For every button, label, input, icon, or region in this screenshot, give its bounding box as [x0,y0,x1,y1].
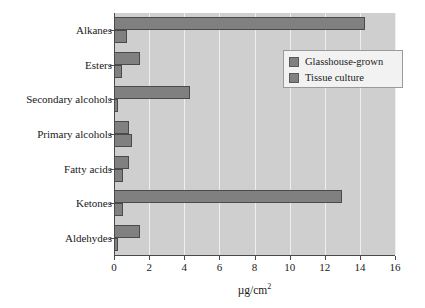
y-axis-category-label: Ketones [4,197,112,210]
bar [114,65,122,78]
x-tick-mark [395,256,396,260]
x-tick-mark [255,256,256,260]
bar [114,238,118,251]
bar [114,30,127,43]
legend-entry: Tissue culture [289,70,397,85]
legend-entry: Glasshouse-grown [289,54,397,69]
x-tick-label: 14 [354,261,365,274]
legend-label: Tissue culture [305,72,364,84]
gridline [219,13,220,255]
y-axis-category-label: Fatty acids [4,162,112,175]
y-axis-labels: AlkanesEstersSecondary alcoholsPrimary a… [0,0,112,308]
y-axis-category-label: Secondary alcohols [4,93,112,106]
bar [114,99,118,112]
y-axis-category-label: Alkanes [4,24,112,37]
x-tick-label: 8 [252,261,258,274]
x-tick-label: 12 [319,261,330,274]
x-axis-title-text: µg/cm [238,284,268,296]
y-axis-category-label: Esters [4,58,112,71]
x-tick-mark [149,256,150,260]
bar [114,169,123,182]
bar [114,52,140,65]
bar-chart-figure: AlkanesEstersSecondary alcoholsPrimary a… [0,0,425,308]
x-tick-label: 6 [217,261,223,274]
x-tick-mark [184,256,185,260]
x-tick-label: 16 [390,261,401,274]
x-tick-mark [219,256,220,260]
x-tick-mark [325,256,326,260]
gridline [149,13,150,255]
x-axis-title-exponent: 2 [267,282,271,291]
legend-label: Glasshouse-grown [305,56,383,68]
bar [114,134,132,147]
chart-legend: Glasshouse-grownTissue culture [283,50,403,88]
legend-swatch-glasshouse-grown [289,57,299,67]
gridline [255,13,256,255]
bar [114,203,123,216]
x-tick-mark [114,256,115,260]
x-tick-label: 2 [146,261,152,274]
x-tick-label: 4 [182,261,188,274]
bar [114,17,365,30]
x-axis-title: µg/cm2 [114,280,395,297]
bar [114,225,140,238]
x-tick-mark [290,256,291,260]
y-axis-category-label: Aldehydes [4,231,112,244]
gridline [184,13,185,255]
x-tick-label: 10 [284,261,295,274]
bar [114,190,342,203]
bar [114,86,190,99]
bar [114,156,129,169]
x-tick-mark [360,256,361,260]
bar [114,121,129,134]
y-axis-category-label: Primary alcohols [4,128,112,141]
x-tick-label: 0 [111,261,117,274]
legend-swatch-tissue-culture [289,73,299,83]
